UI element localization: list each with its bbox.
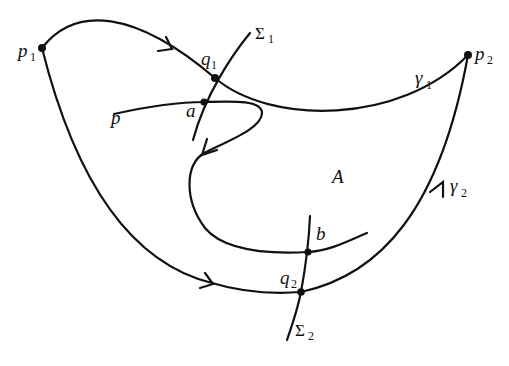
label-a: a: [186, 100, 196, 121]
diagram-canvas: p 1 q 1 Σ 1 a p γ 1 p 2 A γ 2 b q 2 Σ 2: [0, 0, 509, 366]
point-q1: [211, 74, 219, 82]
point-a: [200, 98, 207, 105]
point-p2: [464, 51, 472, 59]
label-sigma2-subscript: 2: [308, 329, 314, 343]
label-q2: q: [280, 267, 290, 288]
label-q1-subscript: 1: [211, 58, 217, 72]
label-sigma2: Σ: [295, 321, 305, 340]
label-q1: q: [201, 48, 211, 69]
point-q2: [297, 288, 305, 296]
label-p: p: [109, 107, 121, 128]
label-p2: p: [473, 43, 485, 64]
label-p1: p: [16, 40, 28, 61]
label-q2-subscript: 2: [291, 277, 297, 291]
label-gamma1-subscript: 1: [426, 78, 432, 92]
label-gamma1: γ: [415, 67, 423, 88]
trajectory-from-p: [114, 101, 367, 252]
arrow-gamma2-right-icon: [430, 182, 443, 197]
label-p1-subscript: 1: [30, 50, 36, 64]
label-b: b: [316, 223, 326, 244]
label-region-A: A: [330, 166, 344, 187]
label-p2-subscript: 2: [487, 53, 493, 67]
point-p1: [38, 44, 46, 52]
gamma2-curve: [42, 48, 468, 293]
label-sigma1-subscript: 1: [268, 32, 274, 46]
diagram-svg: p 1 q 1 Σ 1 a p γ 1 p 2 A γ 2 b q 2 Σ 2: [0, 0, 509, 366]
label-gamma2: γ: [450, 175, 458, 196]
label-sigma1: Σ: [255, 24, 265, 43]
point-b: [304, 248, 311, 255]
label-gamma2-subscript: 2: [461, 186, 467, 200]
